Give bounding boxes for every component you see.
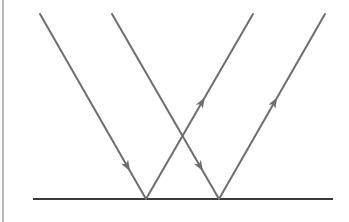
reflection-diagram	[0, 0, 349, 222]
arrowhead-icon	[196, 97, 205, 109]
incident-ray	[40, 14, 146, 199]
arrowhead-icon	[194, 160, 203, 172]
reflected-ray	[219, 14, 325, 199]
reflected-ray	[146, 14, 253, 199]
